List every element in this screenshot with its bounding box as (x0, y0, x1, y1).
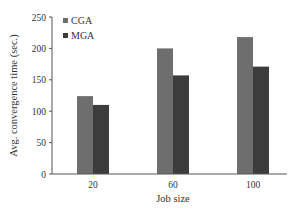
y-tick-label: 200 (32, 44, 47, 54)
y-tick-label: 150 (32, 75, 47, 85)
x-tick-label: 20 (88, 180, 98, 190)
y-tick-label: 250 (32, 13, 47, 23)
legend-swatch-cga (63, 18, 68, 23)
bar-chart: 050100150200250 2060100 Job size Avg. co… (0, 0, 308, 214)
x-tick-label: 100 (246, 180, 261, 190)
legend-label-mga: MGA (71, 30, 95, 41)
legend-label-cga: CGA (71, 15, 93, 26)
y-axis-title: Avg. convergence time (sec.) (8, 34, 20, 157)
y-tick-label: 50 (37, 138, 47, 148)
y-tick-label: 100 (32, 107, 47, 117)
bar-mga-20 (93, 105, 109, 174)
bar-cga-20 (77, 96, 93, 174)
legend-swatch-mga (63, 33, 68, 38)
legend: CGAMGA (63, 15, 95, 41)
bar-cga-100 (237, 37, 253, 174)
y-tick-label: 0 (41, 170, 46, 180)
y-ticks-group: 050100150200250 (32, 13, 52, 180)
x-axis-title: Job size (156, 193, 190, 204)
bar-cga-60 (157, 48, 173, 174)
bar-mga-60 (173, 75, 189, 174)
x-tick-label: 60 (168, 180, 178, 190)
x-ticks-group: 2060100 (88, 180, 260, 190)
bars-group (77, 37, 269, 174)
bar-mga-100 (253, 67, 269, 174)
